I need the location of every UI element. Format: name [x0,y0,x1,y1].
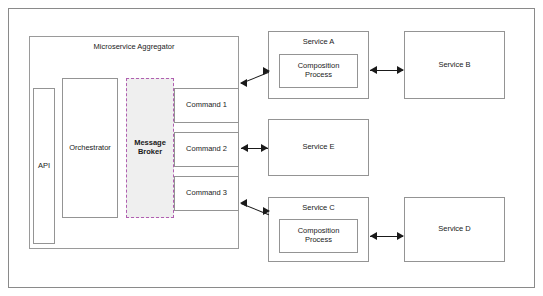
service-b-box: Service B [404,31,505,99]
arrow-command1-servicea-head-left [240,79,247,87]
command-2-label: Command 2 [186,145,227,154]
message-broker-label-line2: Broker [138,148,162,157]
arrow-command2-servicee-head-right [261,144,268,152]
orchestrator-box: Orchestrator [62,78,118,218]
service-c-composition-line2: Process [305,236,332,245]
microservice-aggregator-label: Microservice Aggregator [94,43,175,52]
arrow-servicec-serviced-head-right [397,232,404,240]
service-a-composition-line2: Process [305,71,332,80]
service-e-label: Service E [302,143,334,152]
arrow-servicea-serviceb-head-left [370,66,377,74]
command-1-label: Command 1 [186,101,227,110]
arrow-servicea-serviceb-head-right [397,66,404,74]
message-broker-box: Message Broker [126,78,174,218]
orchestrator-label: Orchestrator [69,144,111,153]
command-1-box: Command 1 [174,88,239,123]
arrow-command3-servicec-head-right [263,207,270,215]
command-3-label: Command 3 [186,189,227,198]
command-3-box: Command 3 [174,176,239,211]
service-d-label: Service D [438,225,471,234]
service-a-composition-process-box: Composition Process [279,54,358,88]
api-label: API [38,162,50,171]
service-b-label: Service B [438,61,470,70]
service-a-label: Service A [303,38,335,47]
service-d-box: Service D [404,197,505,262]
command-2-box: Command 2 [174,132,239,167]
service-c-label: Service C [302,204,335,213]
arrow-servicec-serviced-head-left [370,232,377,240]
service-e-box: Service E [268,119,369,176]
arrow-command3-servicec-head-left [240,199,247,207]
diagram-canvas: Microservice Aggregator API Orchestrator… [0,0,543,296]
service-c-composition-process-box: Composition Process [279,219,358,253]
arrow-command1-servicea-head-right [263,67,270,75]
arrow-command2-servicee-head-left [241,144,248,152]
api-box: API [33,88,55,244]
